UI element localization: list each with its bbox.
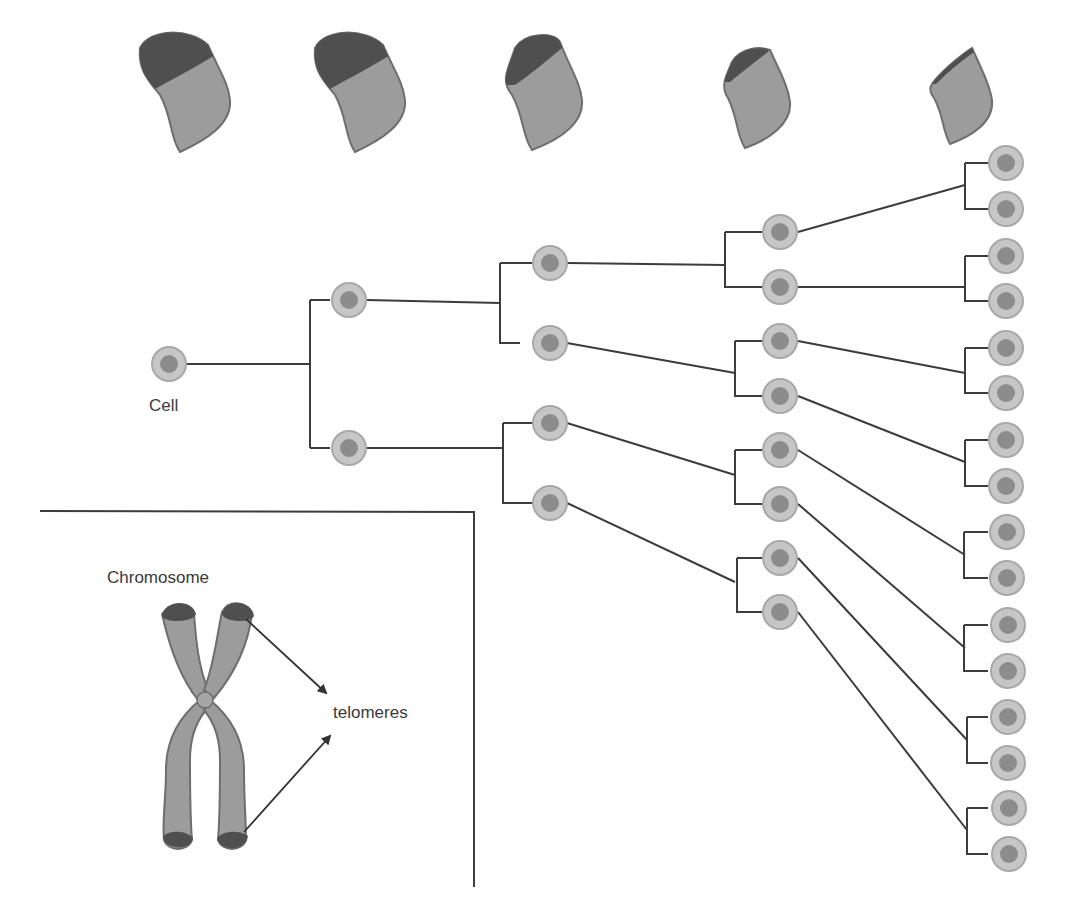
chromosome-arm-icon-5 <box>930 40 992 144</box>
cell-node <box>991 608 1025 642</box>
cell-node <box>989 192 1023 226</box>
cell-node <box>763 215 797 249</box>
chromosome-illustration <box>162 603 254 849</box>
centromere <box>197 692 213 708</box>
generation-4 <box>989 146 1026 871</box>
cell-node <box>533 326 567 360</box>
chromosome-arm-icon-3 <box>500 20 582 150</box>
cell-node <box>763 487 797 521</box>
cell-node <box>533 406 567 440</box>
arrow-upper <box>246 619 326 693</box>
chromosome-arm-icon-2 <box>305 20 405 152</box>
cell-node <box>763 595 797 629</box>
cell-node <box>763 433 797 467</box>
generation-2 <box>533 246 567 520</box>
generation-1 <box>332 283 366 465</box>
cell-label: Cell <box>149 396 178 416</box>
chromosome-label: Chromosome <box>107 568 209 588</box>
cell-node <box>533 246 567 280</box>
chromosome-arm-icon-1 <box>130 20 230 152</box>
lineage-connectors <box>187 163 988 854</box>
telomeres-label: telomeres <box>333 703 408 723</box>
cell-node <box>990 561 1024 595</box>
cell-node <box>991 654 1025 688</box>
cell-node <box>152 347 186 381</box>
inset-frame <box>40 511 474 887</box>
chromosome-arm-icon-4 <box>715 40 790 148</box>
telomere-arrows <box>244 619 330 832</box>
arrow-lower <box>244 736 330 832</box>
cell-node <box>533 486 567 520</box>
cell-node <box>991 746 1025 780</box>
cell-node <box>989 423 1023 457</box>
cell-node <box>992 837 1026 871</box>
generation-0 <box>152 347 186 381</box>
cell-node <box>989 284 1023 318</box>
cell-node <box>992 791 1026 825</box>
cell-node <box>332 283 366 317</box>
cell-node <box>763 270 797 304</box>
cell-node <box>763 324 797 358</box>
cell-node <box>989 331 1023 365</box>
generation-3 <box>763 215 797 629</box>
cell-node <box>332 431 366 465</box>
cell-division-telomere-diagram <box>0 0 1072 917</box>
cell-node <box>989 239 1023 273</box>
cell-node <box>763 379 797 413</box>
cell-node <box>991 700 1025 734</box>
cell-node <box>989 469 1023 503</box>
cell-node <box>989 146 1023 180</box>
telomere-shortening-row <box>130 20 992 152</box>
cell-node <box>990 515 1024 549</box>
cell-node <box>989 376 1023 410</box>
cell-node <box>763 541 797 575</box>
